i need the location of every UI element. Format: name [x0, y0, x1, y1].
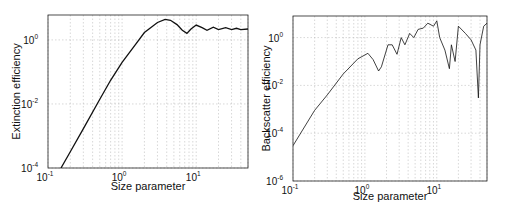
extinction-axes-box	[48, 15, 248, 168]
backscatter-x-axis-label: Size parameter	[353, 190, 428, 202]
extinction-x-tick-label: 101	[186, 170, 201, 183]
backscatter-y-tick-label: 100	[268, 31, 283, 44]
figure: 10-110010110-410-2100Size parameterExtin…	[0, 0, 507, 218]
extinction-y-tick-label: 10-2	[21, 97, 38, 110]
extinction-y-axis-label: Extinction efficiency	[10, 43, 22, 140]
backscatter-x-tick-label: 10-1	[282, 183, 299, 196]
backscatter-axes-box	[293, 16, 487, 181]
backscatter-x-tick-label: 101	[426, 183, 441, 196]
extinction-y-tick-label: 100	[23, 33, 38, 46]
figure-canvas: 10-110010110-410-2100Size parameterExtin…	[0, 0, 507, 218]
backscatter-series-line	[293, 21, 487, 146]
extinction-chart: 10-110010110-410-2100Size parameterExtin…	[10, 15, 248, 192]
extinction-x-tick-label: 10-1	[37, 170, 54, 183]
extinction-x-axis-label: Size parameter	[111, 180, 186, 192]
backscatter-grid	[293, 16, 487, 181]
extinction-grid	[48, 15, 248, 168]
backscatter-y-axis-label: Backscatter efficiency	[260, 45, 272, 152]
extinction-series-line	[61, 19, 248, 168]
backscatter-chart: 10-110010110-610-410-2100Size parameterB…	[260, 16, 487, 202]
